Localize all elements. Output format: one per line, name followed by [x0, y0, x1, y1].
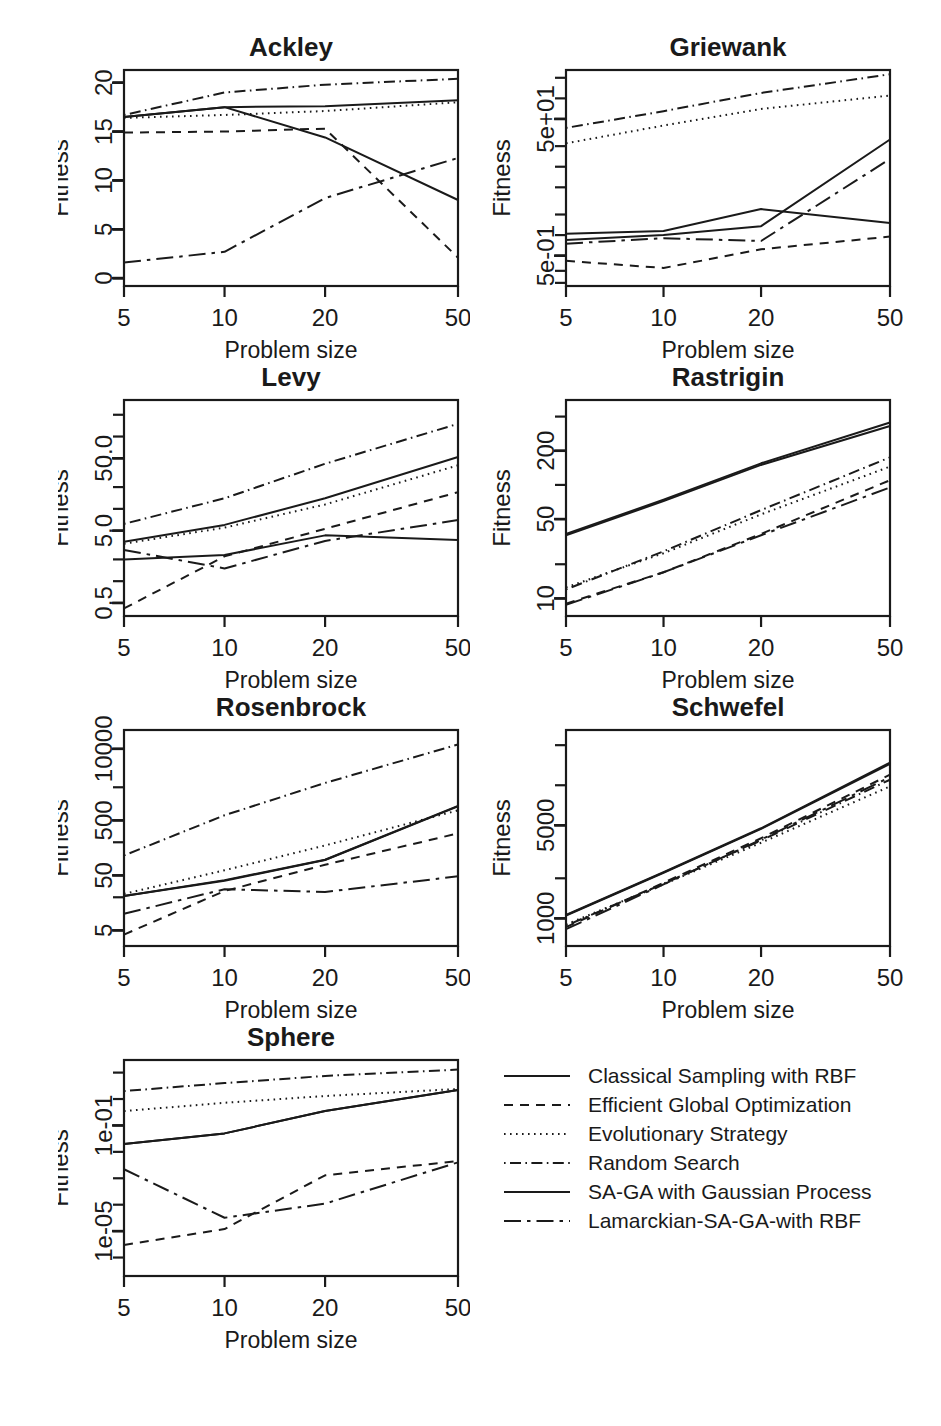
series-line [124, 744, 458, 855]
plot-frame [566, 400, 890, 616]
x-tick-label: 5 [117, 964, 130, 991]
y-tick-label: 50 [532, 506, 559, 533]
legend-item: SA-GA with Gaussian Process [500, 1178, 872, 1206]
series-line [124, 1161, 458, 1245]
y-tick-label: 5 [90, 223, 117, 236]
legend-item-label: Random Search [588, 1149, 740, 1177]
y-tick-label: 0 [90, 272, 117, 285]
series-line [124, 1070, 458, 1091]
y-tick-label: 50 [90, 862, 117, 889]
legend-line-swatch [500, 1062, 570, 1090]
series-line [124, 520, 458, 568]
x-tick-label: 10 [650, 964, 677, 991]
y-axis-label: Fitness [488, 139, 515, 216]
x-tick-label: 10 [211, 1294, 238, 1321]
plot-schwefel: Schwefel5102050Problem size10005000Fitne… [470, 690, 928, 1038]
plot-levy: Levy5102050Problem size0.55.050.0Fitness [58, 360, 470, 708]
panel-ackley: Ackley5102050Problem size05101520Fitness [58, 30, 470, 378]
y-axis-label: Fitness [488, 799, 515, 876]
x-tick-label: 20 [748, 304, 775, 331]
x-tick-label: 50 [445, 964, 470, 991]
y-tick-label: 15 [90, 118, 117, 145]
y-tick-label: 20 [90, 69, 117, 96]
panel-title: Ackley [249, 32, 333, 62]
series-line [566, 74, 890, 128]
x-tick-label: 5 [117, 1294, 130, 1321]
panel-title: Levy [261, 362, 321, 392]
y-tick-label: 10000 [90, 715, 117, 782]
x-tick-label: 20 [748, 964, 775, 991]
panel-title: Schwefel [672, 692, 785, 722]
x-tick-label: 5 [559, 304, 572, 331]
series-line [566, 480, 890, 603]
series-line [566, 140, 890, 240]
x-tick-label: 50 [445, 634, 470, 661]
series-line [124, 158, 458, 263]
legend: Classical Sampling with RBFEfficient Glo… [500, 1062, 930, 1246]
y-axis-label: Fitness [58, 1129, 73, 1206]
plot-ackley: Ackley5102050Problem size05101520Fitness [58, 30, 470, 378]
panel-title: Rosenbrock [216, 692, 367, 722]
y-tick-label: 5.0 [90, 514, 117, 547]
x-tick-label: 10 [211, 964, 238, 991]
y-axis-label: Fitness [58, 139, 73, 216]
x-tick-label: 50 [877, 634, 904, 661]
plot-frame [566, 730, 890, 946]
panel-title: Rastrigin [672, 362, 785, 392]
plot-griewank: Griewank5102050Problem size5e-015e+01Fit… [470, 30, 928, 378]
x-axis-label: Problem size [662, 997, 795, 1023]
series-line [566, 426, 890, 535]
x-tick-label: 50 [877, 304, 904, 331]
panel-levy: Levy5102050Problem size0.55.050.0Fitness [58, 360, 470, 708]
legend-line-swatch [500, 1120, 570, 1148]
y-tick-label: 5000 [532, 799, 559, 852]
series-line [124, 810, 458, 894]
series-line [124, 806, 458, 896]
y-tick-label: 10 [90, 167, 117, 194]
x-tick-label: 20 [312, 304, 339, 331]
x-tick-label: 10 [650, 304, 677, 331]
plot-rosenbrock: Rosenbrock5102050Problem size55050010000… [58, 690, 470, 1038]
x-tick-label: 5 [117, 304, 130, 331]
x-tick-label: 50 [877, 964, 904, 991]
x-tick-label: 20 [312, 634, 339, 661]
y-tick-label: 50.0 [90, 435, 117, 482]
series-line [124, 806, 458, 896]
panel-rastrigin: Rastrigin5102050Problem size1050200Fitne… [470, 360, 928, 708]
x-tick-label: 20 [312, 1294, 339, 1321]
series-line [124, 1090, 458, 1144]
y-axis-label: Fitness [58, 469, 73, 546]
x-tick-label: 10 [211, 304, 238, 331]
plot-rastrigin: Rastrigin5102050Problem size1050200Fitne… [470, 360, 928, 708]
panel-title: Sphere [247, 1022, 335, 1052]
y-tick-label: 5e-01 [532, 225, 559, 286]
panel-griewank: Griewank5102050Problem size5e-015e+01Fit… [470, 30, 928, 378]
y-tick-label: 1e-05 [90, 1200, 117, 1261]
y-tick-label: 5 [90, 924, 117, 937]
legend-item: Evolutionary Strategy [500, 1120, 788, 1148]
series-line [124, 107, 458, 200]
y-axis-label: Fitness [488, 469, 515, 546]
legend-line-swatch [500, 1178, 570, 1206]
x-tick-label: 50 [445, 304, 470, 331]
legend-item-label: Lamarckian-SA-GA-with RBF [588, 1207, 861, 1235]
panel-title: Griewank [669, 32, 787, 62]
series-line [124, 457, 458, 542]
y-tick-label: 1e-01 [90, 1095, 117, 1156]
series-line [566, 763, 890, 915]
x-tick-label: 20 [748, 634, 775, 661]
y-tick-label: 200 [532, 431, 559, 471]
x-tick-label: 10 [211, 634, 238, 661]
series-line [124, 129, 458, 258]
plot-sphere: Sphere5102050Problem size1e-051e-01Fitne… [58, 1020, 470, 1380]
series-line [124, 1162, 458, 1217]
plot-frame [124, 1060, 458, 1276]
series-line [566, 467, 890, 588]
legend-line-swatch [500, 1091, 570, 1119]
y-tick-label: 1000 [532, 892, 559, 945]
panel-schwefel: Schwefel5102050Problem size10005000Fitne… [470, 690, 928, 1038]
series-line [124, 876, 458, 913]
legend-line-swatch [500, 1207, 570, 1235]
x-tick-label: 5 [117, 634, 130, 661]
y-tick-label: 5e+01 [532, 85, 559, 152]
